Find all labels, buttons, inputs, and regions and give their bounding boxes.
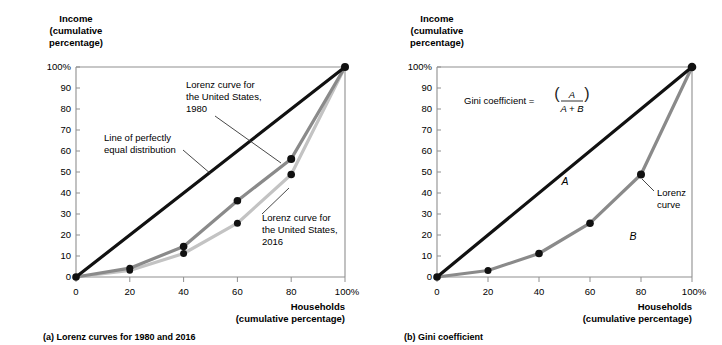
gini-formula: Gini coefficient = ( ) A A + B [464, 85, 590, 114]
area-label-b: B [629, 230, 636, 242]
y-tick-label: 50 [421, 166, 432, 177]
paren-close: ) [584, 85, 589, 102]
y-tick-label: 70 [421, 124, 432, 135]
x-tick-label: 60 [232, 286, 243, 297]
y-tick-marks [437, 67, 441, 256]
y-tick-label: 20 [421, 229, 432, 240]
panel-gini-coefficient: Income (cumulative percentage) 100% 90 8… [361, 0, 722, 345]
area-label-a: A [560, 175, 568, 187]
y-tick-label: 0 [66, 271, 71, 282]
panel-caption-a: (a) Lorenz curves for 1980 and 2016 [43, 332, 196, 342]
x-tick-marks [76, 277, 345, 282]
y-tick-label: 20 [60, 229, 71, 240]
x-tick-label: 80 [286, 286, 297, 297]
y-axis-title-line2: (cumulative [411, 25, 464, 36]
y-tick-label: 40 [421, 187, 432, 198]
y-tick-label: 10 [421, 250, 432, 261]
panel-caption-b: (b) Gini coefficient [404, 332, 483, 342]
x-tick-label: 100% [682, 286, 707, 297]
annotation-lorenz-line1: Lorenz [657, 187, 686, 198]
annotation-1980-line1: Lorenz curve for [186, 79, 255, 90]
y-tick-label: 70 [60, 124, 71, 135]
y-tick-label: 100% [408, 61, 433, 72]
annotation-equality-line2: equal distribution [104, 144, 176, 155]
y-tick-label: 60 [60, 145, 71, 156]
x-tick-label: 60 [585, 286, 596, 297]
formula-numerator: A [568, 89, 575, 100]
annotation-2016-line3: 2016 [262, 236, 283, 247]
y-tick-label: 90 [60, 82, 71, 93]
y-tick-label: 80 [421, 103, 432, 114]
annotation-2016-line2: the United States, [262, 224, 338, 235]
annotation-equality-line1: Line of perfectly [104, 132, 171, 143]
annotation-1980-line2: the United States, [186, 91, 262, 102]
y-tick-label: 30 [60, 208, 71, 219]
paren-open: ( [554, 85, 560, 102]
y-tick-label: 30 [421, 208, 432, 219]
y-tick-label: 90 [421, 82, 432, 93]
panel-lorenz-curves: Income (cumulative percentage) 100% 90 8… [0, 0, 361, 345]
y-tick-marks [76, 67, 80, 256]
y-axis-title-line2: (cumulative [50, 25, 103, 36]
x-tick-label: 20 [483, 286, 494, 297]
x-axis-title-line2: (cumulative percentage) [236, 313, 345, 324]
y-tick-label: 60 [421, 145, 432, 156]
y-axis-title-line3: percentage) [49, 37, 103, 48]
annotation-1980-line3: 1980 [186, 103, 207, 114]
y-tick-label: 40 [60, 187, 71, 198]
y-axis-title-line1: Income [420, 13, 453, 24]
chart-b-svg: Income (cumulative percentage) 100% 90 8… [361, 0, 722, 345]
x-axis-title-line2: (cumulative percentage) [583, 313, 692, 324]
y-tick-label: 10 [60, 250, 71, 261]
leader-line-equality [183, 150, 211, 174]
chart-a-svg: Income (cumulative percentage) 100% 90 8… [0, 0, 361, 345]
x-tick-label: 40 [534, 286, 545, 297]
x-tick-label: 20 [125, 286, 136, 297]
leader-line-lorenz [642, 179, 654, 191]
y-axis-title-line1: Income [59, 13, 92, 24]
x-axis-title-line1: Households [638, 301, 692, 312]
x-tick-label: 80 [636, 286, 647, 297]
formula-denominator: A + B [559, 103, 584, 114]
y-axis-title-line3: percentage) [410, 37, 464, 48]
x-tick-marks [437, 277, 692, 282]
x-axis-title-line1: Households [291, 301, 345, 312]
annotation-2016-line1: Lorenz curve for [262, 212, 331, 223]
leader-line-2016 [262, 188, 289, 214]
y-tick-label: 100% [47, 61, 72, 72]
x-tick-label: 0 [73, 286, 78, 297]
formula-lhs: Gini coefficient = [464, 95, 535, 106]
x-tick-label: 100% [335, 286, 360, 297]
y-tick-label: 80 [60, 103, 71, 114]
y-tick-label: 0 [427, 271, 432, 282]
x-tick-label: 40 [178, 286, 189, 297]
y-tick-label: 50 [60, 166, 71, 177]
x-tick-label: 0 [434, 286, 439, 297]
annotation-lorenz-line2: curve [657, 199, 680, 210]
